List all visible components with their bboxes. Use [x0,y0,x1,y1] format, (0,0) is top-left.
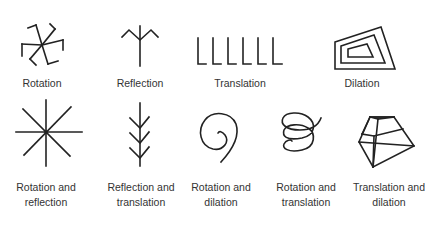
stacked-trapezoids-icon [359,117,414,167]
spiral-icon [201,114,237,162]
label-dilation: Dilation [344,76,379,91]
mirrored-branch-icon [122,26,158,66]
label-line1: Reflection and [107,180,174,195]
label-translation-dilation: Translation and dilation [353,180,425,210]
label-line2: translation [107,195,174,210]
label-line2: dilation [191,195,251,210]
herringbone-icon [130,103,149,166]
label-rotation-dilation: Rotation and dilation [191,180,251,210]
label-line1: Rotation and [191,180,251,195]
label-rotation: Rotation [22,76,61,91]
eight-point-star-icon [16,100,82,166]
label-line2: translation [276,195,336,210]
nested-trapezoids-icon [335,27,395,69]
pinwheel-icon [22,24,63,65]
label-line2: reflection [16,195,76,210]
label-reflection-translation: Reflection and translation [107,180,174,210]
label-reflection: Reflection [117,76,164,91]
helix-icon [282,113,321,151]
label-line1: Translation and [353,180,425,195]
label-rotation-translation: Rotation and translation [276,180,336,210]
repeated-l-icon [198,38,282,64]
label-rotation-reflection: Rotation and reflection [16,180,76,210]
label-line1: Rotation and [16,180,76,195]
label-line2: dilation [353,195,425,210]
label-translation: Translation [214,76,266,91]
label-line1: Rotation and [276,180,336,195]
